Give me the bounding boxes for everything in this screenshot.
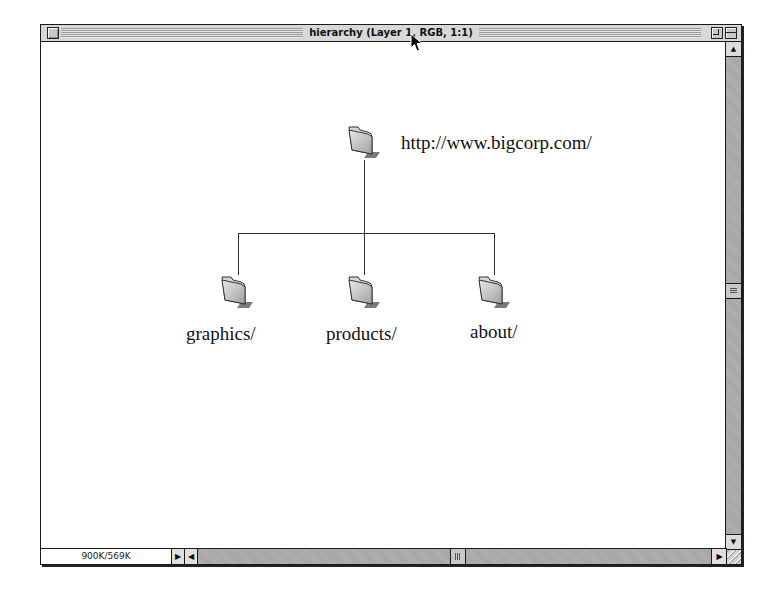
folder-icon[interactable] bbox=[346, 274, 380, 308]
window-title-wrap: hierarchy (Layer 1, RGB, 1:1) bbox=[41, 26, 741, 40]
tree-child-label-graphics: graphics/ bbox=[186, 323, 256, 345]
tree-connector-horizontal bbox=[238, 233, 495, 234]
scroll-left-button[interactable]: ◀ bbox=[185, 549, 198, 564]
title-bar[interactable]: hierarchy (Layer 1, RGB, 1:1) bbox=[41, 25, 741, 42]
collapse-box-icon[interactable] bbox=[725, 27, 737, 39]
tree-child-label-about: about/ bbox=[470, 321, 518, 343]
arrow-left-icon: ◀ bbox=[188, 552, 194, 561]
arrow-down-icon: ▼ bbox=[731, 538, 736, 546]
tree-connector-vertical-root bbox=[364, 160, 365, 234]
canvas[interactable]: http://www.bigcorp.com/ graphics/ produc… bbox=[41, 42, 727, 549]
scroll-right-button[interactable]: ▶ bbox=[711, 549, 727, 564]
zoom-box-icon[interactable] bbox=[711, 27, 723, 39]
folder-icon[interactable] bbox=[476, 274, 510, 308]
vertical-scroll-thumb[interactable] bbox=[726, 283, 741, 299]
arrow-up-icon: ▲ bbox=[731, 45, 736, 53]
triangle-right-icon: ▶ bbox=[175, 552, 181, 561]
arrow-right-icon: ▶ bbox=[716, 552, 722, 561]
tree-child-label-products: products/ bbox=[326, 323, 397, 345]
status-menu-button[interactable]: ▶ bbox=[172, 549, 185, 564]
folder-icon[interactable] bbox=[346, 124, 380, 158]
resize-grip-icon[interactable] bbox=[726, 549, 741, 564]
horizontal-scroll-thumb[interactable] bbox=[450, 549, 466, 564]
folder-icon[interactable] bbox=[219, 274, 253, 308]
scroll-down-button[interactable]: ▼ bbox=[726, 534, 741, 549]
tree-root-label: http://www.bigcorp.com/ bbox=[401, 132, 592, 154]
window-title: hierarchy (Layer 1, RGB, 1:1) bbox=[303, 27, 479, 38]
tree-connector-about bbox=[494, 233, 495, 275]
document-window: hierarchy (Layer 1, RGB, 1:1) http://www… bbox=[40, 24, 742, 565]
tree-connector-graphics bbox=[238, 233, 239, 275]
tree-connector-products bbox=[364, 233, 365, 275]
document-size-status[interactable]: 900K/569K bbox=[41, 549, 172, 564]
arrow-cursor-icon bbox=[410, 33, 424, 53]
vertical-scrollbar[interactable]: ▲ ▼ bbox=[725, 42, 741, 549]
horizontal-scrollbar[interactable]: 900K/569K ▶ ◀ ▶ bbox=[41, 548, 727, 564]
scroll-up-button[interactable]: ▲ bbox=[726, 42, 741, 57]
